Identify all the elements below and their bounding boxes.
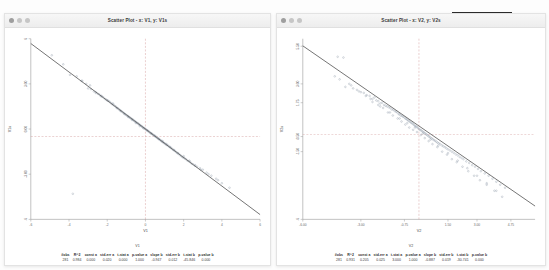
stats-value-cell: 1.000 <box>404 258 422 262</box>
svg-text:3.00: 3.00 <box>24 81 28 88</box>
stats-value-cell: 0.012 <box>164 258 181 262</box>
stats-value-cell: 0.019 <box>438 258 455 262</box>
stats-header-cell: std-err a <box>372 253 389 257</box>
stats-value-cell: 0.205 <box>357 258 372 262</box>
svg-text:0.00: 0.00 <box>24 126 28 133</box>
stats-value-cell: 1.000 <box>130 258 148 262</box>
svg-text:5.50: 5.50 <box>296 43 300 50</box>
svg-text:2: 2 <box>183 223 185 227</box>
scatter-chart-right: -6.00-3.00-0.751.503.004.755.503.001.75-… <box>277 28 545 242</box>
stats-value-row: 2810.9310.2050.0253.0001.000-0.8870.019-… <box>333 258 488 262</box>
stats-header-cell: #obs <box>333 253 344 257</box>
regression-stats-table-right: #obsR^2const astd-err at-stat ap-value a… <box>333 253 488 262</box>
stats-value-cell: 0.000 <box>197 258 216 262</box>
stats-value-cell: -30.741 <box>455 258 470 262</box>
svg-text:-6: -6 <box>29 223 32 227</box>
stats-value-cell: 3.000 <box>389 258 404 262</box>
stats-value-cell: -0.947 <box>149 258 164 262</box>
stats-value-cell: -0.887 <box>422 258 437 262</box>
stats-var-label-left: V1 <box>5 244 270 248</box>
scatter-plot-window-left[interactable]: Scatter Plot - x: V1, y: V1s -6-4-20246-… <box>4 13 271 266</box>
stats-header-cell: p-value b <box>470 253 489 257</box>
svg-text:-6: -6 <box>24 218 28 221</box>
stats-header-cell: p-value a <box>130 253 148 257</box>
stats-value-cell: 0.931 <box>345 258 357 262</box>
stats-header-cell: std-err a <box>99 253 116 257</box>
stats-header-cell: slope b <box>149 253 164 257</box>
svg-text:1.75: 1.75 <box>296 99 300 106</box>
titlebar-right[interactable]: Scatter Plot - x: V2, y: V2s <box>277 14 545 28</box>
svg-text:V2: V2 <box>417 229 422 233</box>
svg-text:-3.00: -3.00 <box>357 223 365 227</box>
stats-header-cell: t-stat a <box>389 253 404 257</box>
stats-header-cell: const a <box>357 253 372 257</box>
stats-header-cell: t-stat b <box>182 253 197 257</box>
stats-value-cell: 0.000 <box>470 258 489 262</box>
stats-header-cell: slope b <box>422 253 437 257</box>
svg-text:V1s: V1s <box>8 126 12 133</box>
svg-text:-2: -2 <box>106 223 109 227</box>
stats-panel-right: V2 #obsR^2const astd-err at-stat ap-valu… <box>277 244 545 266</box>
svg-text:V1: V1 <box>143 229 148 233</box>
stats-var-label-right: V2 <box>277 244 545 248</box>
stats-value-cell: 281 <box>60 258 71 262</box>
svg-text:4: 4 <box>221 223 223 227</box>
svg-text:-1.50: -1.50 <box>296 148 300 156</box>
plot-body-left: -6-4-20246-6-3.000.003.006V1V1s V1 #obsR… <box>5 28 270 266</box>
svg-text:1.50: 1.50 <box>445 223 452 227</box>
svg-text:V2s: V2s <box>280 126 284 133</box>
plot-body-right: -6.00-3.00-0.751.503.004.755.503.001.75-… <box>277 28 545 266</box>
stats-panel-left: V1 #obsR^2const astd-err at-stat ap-valu… <box>5 244 270 266</box>
svg-text:6: 6 <box>259 223 261 227</box>
stats-header-cell: p-value a <box>404 253 422 257</box>
stats-header-cell: const a <box>83 253 98 257</box>
svg-text:-6.00: -6.00 <box>299 223 307 227</box>
stats-value-cell: 0.000 <box>116 258 131 262</box>
svg-text:4.75: 4.75 <box>508 223 515 227</box>
stats-header-cell: t-stat a <box>116 253 131 257</box>
stats-header-cell: std-err b <box>164 253 181 257</box>
stats-value-cell: 0.984 <box>71 258 83 262</box>
svg-text:-4: -4 <box>68 223 71 227</box>
svg-text:-0.75: -0.75 <box>401 223 409 227</box>
svg-text:-0.50: -0.50 <box>296 133 300 141</box>
stats-value-cell: 0.025 <box>372 258 389 262</box>
svg-text:6: 6 <box>24 38 28 40</box>
window-title-right: Scatter Plot - x: V2, y: V2s <box>277 18 545 23</box>
stats-value-cell: 0.020 <box>99 258 116 262</box>
window-title-left: Scatter Plot - x: V1, y: V1s <box>5 18 270 23</box>
stats-value-cell: 0.000 <box>83 258 98 262</box>
stats-value-row: 2810.9840.0000.0200.0001.000-0.9470.012-… <box>60 258 215 262</box>
scatter-plot-window-right[interactable]: Scatter Plot - x: V2, y: V2s -6.00-3.00-… <box>276 13 546 266</box>
stats-value-cell: 281 <box>333 258 344 262</box>
svg-text:3.00: 3.00 <box>474 223 481 227</box>
svg-text:-6: -6 <box>296 218 300 221</box>
stats-header-cell: p-value b <box>197 253 216 257</box>
stats-header-cell: #obs <box>60 253 71 257</box>
stats-header-cell: std-err b <box>438 253 455 257</box>
svg-text:0: 0 <box>145 223 147 227</box>
stats-header-cell: t-stat b <box>455 253 470 257</box>
stats-value-cell: -45.846 <box>182 258 197 262</box>
svg-text:-3.00: -3.00 <box>24 170 28 178</box>
titlebar-left[interactable]: Scatter Plot - x: V1, y: V1s <box>5 14 270 28</box>
svg-text:3.00: 3.00 <box>296 81 300 88</box>
scatter-chart-left: -6-4-20246-6-3.000.003.006V1V1s <box>5 28 270 242</box>
regression-stats-table-left: #obsR^2const astd-err at-stat ap-value a… <box>60 253 215 262</box>
